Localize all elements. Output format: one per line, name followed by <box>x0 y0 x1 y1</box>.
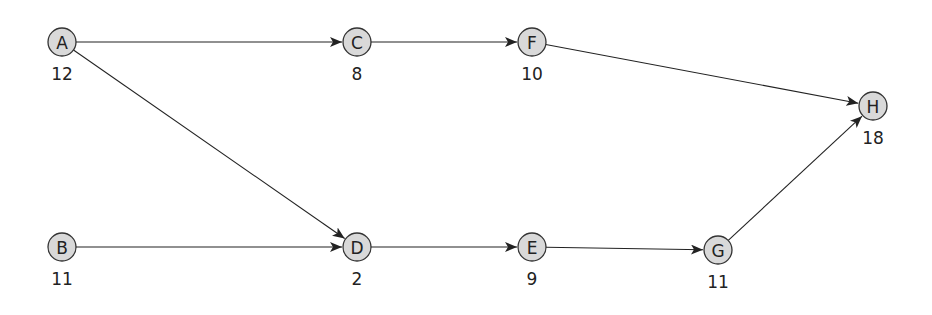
node-f: F10 <box>518 28 546 84</box>
node-label: E <box>527 238 538 258</box>
node-label: D <box>350 238 363 258</box>
node-label: C <box>351 33 363 53</box>
node-value: 2 <box>352 269 363 289</box>
node-value: 10 <box>521 64 543 84</box>
node-value: 8 <box>352 64 363 84</box>
node-value: 12 <box>51 64 73 84</box>
node-label: F <box>527 33 537 53</box>
nodes-layer: A12C8F10H18B11D2E9G11 <box>48 28 887 292</box>
node-c: C8 <box>343 28 371 84</box>
node-g: G11 <box>704 236 732 292</box>
node-b: B11 <box>48 233 76 289</box>
node-value: 11 <box>707 272 729 292</box>
node-label: H <box>867 97 880 117</box>
node-h: H18 <box>859 92 887 148</box>
node-value: 11 <box>51 269 73 289</box>
node-e: E9 <box>518 233 546 289</box>
edge-f-to-h <box>546 45 858 104</box>
node-label: B <box>56 238 68 258</box>
edge-a-to-d <box>73 50 344 238</box>
network-diagram: A12C8F10H18B11D2E9G11 <box>0 0 932 315</box>
node-d: D2 <box>343 233 371 289</box>
node-label: G <box>711 241 724 261</box>
edges-layer <box>73 42 862 250</box>
node-value: 18 <box>862 128 884 148</box>
edge-e-to-g <box>546 247 703 250</box>
node-a: A12 <box>48 28 76 84</box>
node-value: 9 <box>527 269 538 289</box>
node-label: A <box>56 33 68 53</box>
edge-g-to-h <box>728 116 862 240</box>
